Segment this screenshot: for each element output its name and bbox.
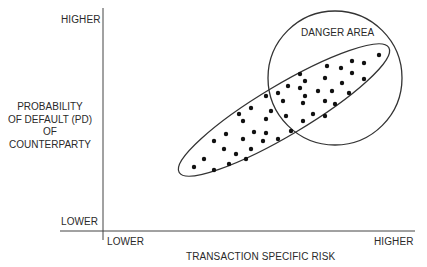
data-point (261, 139, 265, 143)
data-point (289, 129, 293, 133)
data-point (323, 99, 327, 103)
data-point (301, 119, 305, 123)
data-point (303, 79, 307, 83)
data-point (202, 157, 206, 161)
data-point (298, 72, 302, 76)
data-points (192, 53, 381, 172)
data-point (276, 137, 280, 141)
y-axis-high-label: HIGHER (61, 14, 101, 26)
data-point (347, 91, 351, 95)
data-point (252, 130, 256, 134)
data-point (323, 114, 327, 118)
data-point (298, 86, 302, 90)
data-point (330, 89, 334, 93)
y-axis-title-line: OF DEFAULT (PD) (2, 114, 98, 127)
data-point (269, 109, 273, 113)
x-axis-low-label: LOWER (107, 236, 144, 248)
y-axis-title-line: OF (2, 126, 98, 139)
data-point (316, 89, 320, 93)
danger-area-label: DANGER AREA (301, 27, 374, 39)
data-point (264, 131, 268, 135)
data-point (350, 59, 354, 63)
data-point (333, 102, 337, 106)
data-point (301, 101, 305, 105)
data-point (212, 139, 216, 143)
data-point (212, 168, 216, 172)
data-point (340, 81, 344, 85)
data-point (286, 84, 290, 88)
x-axis-title: TRANSACTION SPECIFIC RISK (186, 251, 335, 263)
data-point (222, 147, 226, 151)
data-point (325, 64, 329, 68)
data-point (264, 117, 268, 121)
data-point (192, 165, 196, 169)
data-point (234, 152, 238, 156)
data-point (281, 99, 285, 103)
data-point (244, 157, 248, 161)
data-point (227, 162, 231, 166)
data-point (362, 77, 366, 81)
data-point (241, 119, 245, 123)
y-axis-title: PROBABILITY OF DEFAULT (PD) OF COUNTERPA… (2, 101, 98, 151)
data-point (241, 137, 245, 141)
y-axis-title-line: COUNTERPARTY (2, 139, 98, 152)
y-axis-low-label: LOWER (61, 216, 98, 228)
y-axis-title-line: PROBABILITY (2, 101, 98, 114)
data-point (224, 132, 228, 136)
data-point (323, 76, 327, 80)
data-point (311, 112, 315, 116)
data-point (362, 61, 366, 65)
data-point (284, 114, 288, 118)
data-point (377, 53, 381, 57)
data-point (276, 91, 280, 95)
data-point (303, 94, 307, 98)
data-point (264, 94, 268, 98)
data-point (237, 112, 241, 116)
data-point (249, 147, 253, 151)
data-point (249, 106, 253, 110)
data-point (339, 66, 343, 70)
cluster-ellipse (166, 26, 401, 194)
data-point (350, 71, 354, 75)
x-axis-high-label: HIGHER (374, 236, 414, 248)
